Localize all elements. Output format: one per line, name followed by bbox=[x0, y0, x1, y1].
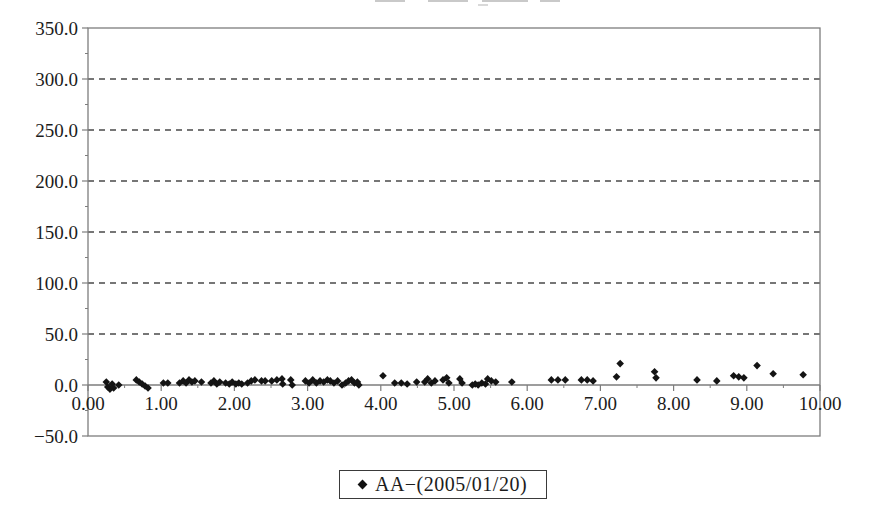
svg-text:50.0: 50.0 bbox=[45, 324, 78, 345]
svg-text:150.0: 150.0 bbox=[35, 222, 78, 243]
svg-text:6.00: 6.00 bbox=[511, 393, 544, 414]
legend: AA−(2005/01/20) bbox=[339, 470, 547, 499]
svg-text:350.0: 350.0 bbox=[35, 18, 78, 39]
svg-text:3.00: 3.00 bbox=[291, 393, 324, 414]
svg-text:250.0: 250.0 bbox=[35, 120, 78, 141]
svg-text:200.0: 200.0 bbox=[35, 171, 78, 192]
svg-text:7.00: 7.00 bbox=[584, 393, 617, 414]
svg-text:9.00: 9.00 bbox=[730, 393, 763, 414]
svg-text:300.0: 300.0 bbox=[35, 69, 78, 90]
svg-text:8.00: 8.00 bbox=[657, 393, 690, 414]
svg-text:0.00: 0.00 bbox=[71, 393, 104, 414]
diamond-marker-icon bbox=[357, 480, 367, 490]
svg-text:5.00: 5.00 bbox=[437, 393, 470, 414]
legend-label: AA−(2005/01/20) bbox=[375, 473, 527, 496]
svg-text:−50.0: −50.0 bbox=[34, 426, 78, 447]
svg-text:2.00: 2.00 bbox=[218, 393, 251, 414]
svg-text:4.00: 4.00 bbox=[364, 393, 397, 414]
scatter-chart: 350.0300.0250.0200.0150.0100.050.00.0−50… bbox=[0, 0, 870, 516]
chart-page: 350.0300.0250.0200.0150.0100.050.00.0−50… bbox=[0, 0, 870, 516]
svg-text:100.0: 100.0 bbox=[35, 273, 78, 294]
svg-text:10.00: 10.00 bbox=[799, 393, 842, 414]
svg-text:1.00: 1.00 bbox=[145, 393, 178, 414]
